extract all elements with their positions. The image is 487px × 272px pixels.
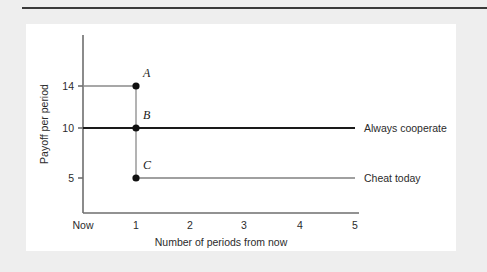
point-label-c: C xyxy=(143,158,152,172)
data-point-a xyxy=(132,82,139,89)
data-point-c xyxy=(132,174,139,181)
top-divider-rule xyxy=(22,7,487,9)
x-tick-label-now: Now xyxy=(72,219,93,231)
series-label-cheat-today: Cheat today xyxy=(364,172,421,184)
x-tick-label-5: 5 xyxy=(352,219,358,231)
x-tick-label-4: 4 xyxy=(297,219,303,231)
y-tick-label-14: 14 xyxy=(62,80,74,92)
x-tick-label-3: 3 xyxy=(241,219,247,231)
x-tick-label-2: 2 xyxy=(187,219,193,231)
point-label-b: B xyxy=(143,108,151,122)
figure-card: A B C 14 10 5 Now 1 2 3 4 5 Number of pe… xyxy=(26,24,456,251)
data-point-b xyxy=(132,124,139,131)
y-tick-label-10: 10 xyxy=(62,122,74,134)
x-axis-title: Number of periods from now xyxy=(155,236,288,248)
x-tick-label-1: 1 xyxy=(133,219,139,231)
y-axis-title: Payoff per period xyxy=(38,84,50,164)
payoff-chart: A B C 14 10 5 Now 1 2 3 4 5 Number of pe… xyxy=(26,24,456,251)
y-tick-label-5: 5 xyxy=(68,172,74,184)
series-label-always-cooperate: Always cooperate xyxy=(364,122,447,134)
point-label-a: A xyxy=(142,66,151,80)
